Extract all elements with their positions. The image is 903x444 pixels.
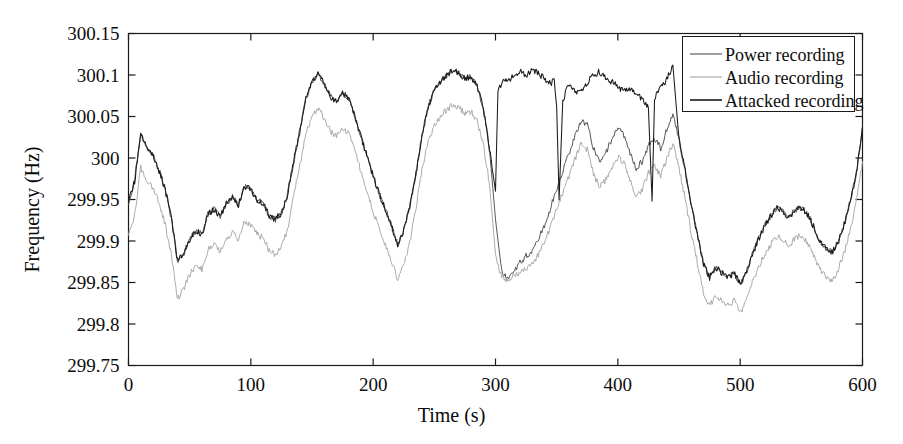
- chart-legend: Power recordingAudio recordingAttacked r…: [683, 37, 864, 112]
- y-tick-label: 299.75: [67, 355, 119, 376]
- frequency-plot-figure: 299.75299.8299.85299.9299.95300300.05300…: [0, 0, 903, 444]
- legend-label: Audio recording: [725, 68, 843, 88]
- legend-label: Power recording: [725, 45, 844, 65]
- chart-canvas: 299.75299.8299.85299.9299.95300300.05300…: [0, 0, 903, 444]
- y-tick-label: 300.05: [67, 106, 119, 127]
- x-tick-label: 300: [481, 374, 510, 395]
- y-tick-label: 299.8: [77, 314, 120, 335]
- y-tick-label: 300.15: [67, 23, 119, 44]
- x-tick-label: 200: [359, 374, 388, 395]
- y-tick-label: 300.1: [77, 65, 120, 86]
- y-axis-title: Frequency (Hz): [21, 130, 44, 290]
- y-tick-label: 300: [91, 148, 120, 169]
- x-tick-label: 500: [726, 374, 755, 395]
- x-axis-title: Time (s): [0, 404, 903, 427]
- y-tick-label: 299.9: [77, 231, 120, 252]
- x-tick-label: 400: [604, 374, 633, 395]
- legend-label: Attacked recording: [725, 91, 863, 111]
- x-tick-label: 100: [237, 374, 266, 395]
- y-tick-label: 299.85: [67, 272, 119, 293]
- y-tick-label: 299.95: [67, 189, 119, 210]
- x-tick-label: 600: [848, 374, 877, 395]
- x-tick-label: 0: [124, 374, 134, 395]
